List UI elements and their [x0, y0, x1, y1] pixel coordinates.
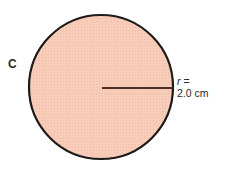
- radius-label: r = 2.0 cm: [177, 75, 209, 99]
- figure-label: C: [8, 57, 17, 71]
- radius-value: 2.0 cm: [177, 87, 209, 99]
- radius-equals: =: [181, 75, 190, 87]
